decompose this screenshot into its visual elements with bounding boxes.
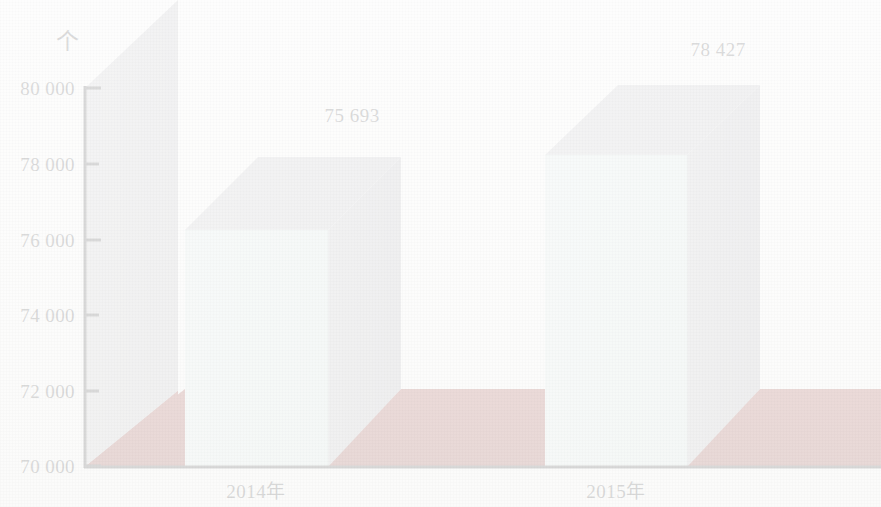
x-tick-label-2015: 2015年 <box>546 482 686 501</box>
y-tick-label-80000: 80 000 <box>0 79 75 98</box>
y-axis-unit-label: 个 <box>56 30 79 53</box>
y-tick-label-76000: 76 000 <box>0 231 75 250</box>
bar-chart-figure: 个 80 000 78 000 76 000 74 000 72 000 70 … <box>0 0 881 507</box>
y-tick-label-70000: 70 000 <box>0 457 75 476</box>
y-tick-label-74000: 74 000 <box>0 306 75 325</box>
bar-value-label-2014: 75 693 <box>282 106 422 125</box>
x-tick-label-2014: 2014年 <box>186 482 326 501</box>
bar-value-label-2015: 78 427 <box>648 40 788 59</box>
chart-text-layer: 个 80 000 78 000 76 000 74 000 72 000 70 … <box>0 0 881 507</box>
y-tick-label-78000: 78 000 <box>0 155 75 174</box>
y-tick-label-72000: 72 000 <box>0 382 75 401</box>
